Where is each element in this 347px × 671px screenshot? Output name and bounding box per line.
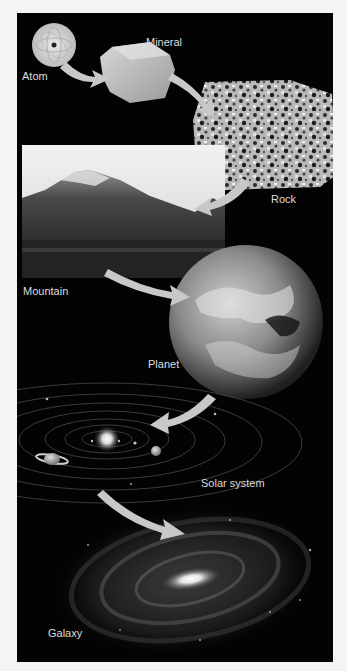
saturn [36,452,69,465]
atom-image [32,23,76,67]
label-atom: Atom [22,70,48,82]
label-rock: Rock [271,193,296,205]
label-galaxy: Galaxy [48,627,82,639]
galaxy-image [41,489,329,662]
planet-image [169,245,323,399]
diagram-panel: Atom Mineral Rock Mountain Planet Solar … [17,13,333,662]
sun-glow [93,425,121,453]
label-solar-system: Solar system [201,477,265,489]
label-mineral: Mineral [146,36,182,48]
mountain-image [22,145,225,278]
diagram-artwork [17,13,333,662]
mineral-image [100,42,175,103]
label-planet: Planet [148,358,179,370]
label-mountain: Mountain [23,285,68,297]
small-planet [151,446,161,456]
